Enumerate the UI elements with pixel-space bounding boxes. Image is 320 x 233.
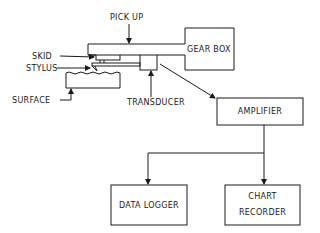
amplifier-label: AMPLIFIER [217, 107, 303, 116]
chart-recorder-label-line1: CHART [225, 192, 300, 201]
pickup-label: PICK UP [110, 13, 143, 22]
data-logger-label: DATA LOGGER [111, 201, 187, 210]
chart-recorder-label-line2: RECORDER [225, 208, 300, 217]
transducer-box [140, 55, 157, 70]
transducer-to-amplifier [160, 64, 215, 98]
stylus-label: STYLUS [26, 64, 58, 73]
chart-recorder-box [225, 185, 300, 225]
surface-label: SURFACE [12, 96, 50, 105]
transducer-label: TRANSDUCER [127, 98, 185, 107]
skid [96, 55, 120, 60]
stylus-arm [92, 63, 140, 66]
surface-block [66, 72, 120, 88]
gearbox-label: GEAR BOX [187, 45, 231, 54]
stylus-tip [92, 66, 97, 71]
skid-label: SKID [32, 52, 52, 61]
